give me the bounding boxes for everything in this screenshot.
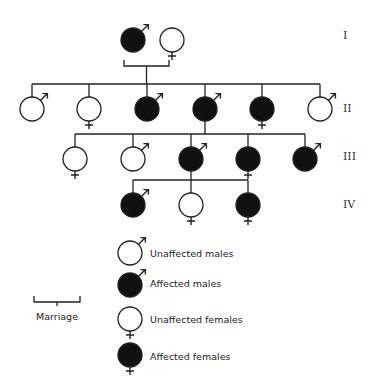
male-arrow-icon bbox=[141, 190, 148, 197]
legend: Unaffected males Affected males Unaffect… bbox=[34, 238, 243, 375]
female-cross-icon bbox=[244, 217, 252, 225]
individual-iv-2 bbox=[179, 193, 203, 225]
affected-female-circle bbox=[250, 97, 274, 121]
individual-iii-3 bbox=[179, 144, 206, 171]
male-arrow-icon bbox=[141, 25, 148, 32]
affected-female-circle bbox=[236, 193, 260, 217]
pedigree-chart: I II III IV Unaffected males Affected ma… bbox=[0, 0, 375, 386]
male-arrow-icon bbox=[328, 94, 335, 101]
generation-label-1: I bbox=[343, 29, 347, 42]
generation-label-2: II bbox=[343, 102, 352, 115]
male-arrow-icon bbox=[138, 238, 145, 245]
generation-label-3: III bbox=[343, 150, 356, 163]
male-arrow-icon bbox=[213, 94, 220, 101]
female-cross-icon bbox=[85, 121, 93, 129]
legend-symbol-affected-male bbox=[118, 270, 145, 297]
male-arrow-icon bbox=[155, 94, 162, 101]
individual-iii-4 bbox=[236, 147, 260, 179]
female-cross-icon bbox=[126, 331, 134, 339]
marriage-bracket bbox=[124, 60, 169, 66]
unaffected-female-circle bbox=[77, 97, 101, 121]
affected-female-circle bbox=[236, 147, 260, 171]
legend-label-marriage: Marriage bbox=[36, 311, 78, 322]
individual-iii-5 bbox=[293, 144, 320, 171]
female-cross-icon bbox=[244, 171, 252, 179]
unaffected-female-circle bbox=[118, 307, 142, 331]
individual-iii-2 bbox=[121, 144, 148, 171]
female-cross-icon bbox=[126, 367, 134, 375]
legend-symbol-unaffected-male bbox=[118, 238, 145, 265]
unaffected-female-circle bbox=[63, 147, 87, 171]
individual-ii-3 bbox=[135, 94, 162, 121]
legend-label-affected-females: Affected females bbox=[150, 351, 230, 362]
generation-labels: I II III IV bbox=[343, 29, 356, 211]
individual-iv-1 bbox=[121, 190, 148, 217]
male-arrow-icon bbox=[199, 144, 206, 151]
legend-label-unaffected-males: Unaffected males bbox=[150, 248, 234, 259]
female-cross-icon bbox=[168, 52, 176, 60]
legend-symbol-affected-female bbox=[118, 343, 142, 375]
individual-ii-6 bbox=[308, 94, 335, 121]
male-arrow-icon bbox=[138, 270, 145, 277]
unaffected-female-circle bbox=[160, 28, 184, 52]
generation-label-4: IV bbox=[343, 198, 356, 211]
female-cross-icon bbox=[187, 217, 195, 225]
individual-ii-2 bbox=[77, 97, 101, 129]
legend-label-affected-males: Affected males bbox=[150, 278, 221, 289]
individual-ii-5 bbox=[250, 97, 274, 129]
individual-i-2 bbox=[160, 28, 184, 60]
male-arrow-icon bbox=[141, 144, 148, 151]
pedigree-symbols bbox=[20, 25, 335, 225]
legend-marriage-bracket bbox=[34, 296, 80, 306]
legend-symbol-unaffected-female bbox=[118, 307, 142, 339]
individual-iv-3 bbox=[236, 193, 260, 225]
male-arrow-icon bbox=[313, 144, 320, 151]
individual-i-1 bbox=[121, 25, 148, 52]
legend-label-unaffected-females: Unaffected females bbox=[150, 314, 243, 325]
affected-female-circle bbox=[118, 343, 142, 367]
individual-ii-1 bbox=[20, 94, 47, 121]
male-arrow-icon bbox=[40, 94, 47, 101]
female-cross-icon bbox=[258, 121, 266, 129]
individual-ii-4 bbox=[193, 94, 220, 121]
unaffected-female-circle bbox=[179, 193, 203, 217]
female-cross-icon bbox=[71, 171, 79, 179]
individual-iii-1 bbox=[63, 147, 87, 179]
